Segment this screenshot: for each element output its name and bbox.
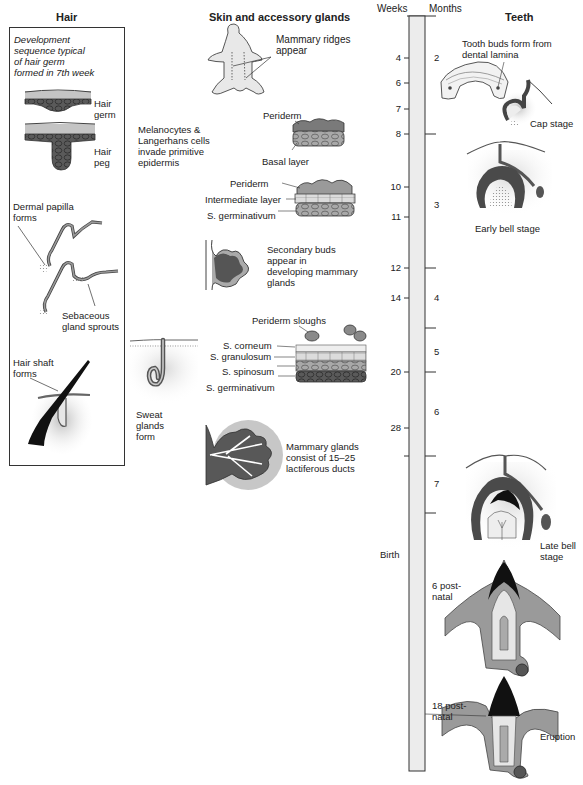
- sebaceous-gland-label: Sebaceous gland sprouts: [62, 310, 119, 332]
- s-spinosum-label: S. spinosum: [222, 366, 274, 377]
- label-line: natal: [432, 591, 461, 602]
- month-label: 4: [434, 292, 439, 303]
- s-corneum-label: S. corneum: [223, 340, 272, 351]
- sweat-glands-label: Sweat glands form: [136, 409, 164, 442]
- periderm-label-1: Periderm: [263, 110, 302, 121]
- s-germinativum-label-2: S. germinativum: [206, 382, 275, 393]
- label-line: Mammary glands: [286, 441, 359, 452]
- postnatal-6-label: 6 post- natal: [432, 580, 461, 602]
- week-label: 12: [390, 262, 401, 273]
- week-label: 4: [396, 52, 401, 63]
- month-label: 7: [434, 478, 439, 489]
- secondary-buds-label: Secondary buds appear in developing mamm…: [267, 244, 358, 288]
- label-line: form: [136, 431, 164, 442]
- label-line: Sweat: [136, 409, 164, 420]
- week-label: 8: [396, 128, 401, 139]
- s-germinativum-label-1: S. germinativum: [207, 210, 276, 221]
- month-ticks: [425, 134, 436, 513]
- label-line: Sebaceous: [62, 310, 119, 321]
- label-line: Langerhans cells: [138, 135, 210, 146]
- label-line: lactiferous ducts: [286, 463, 359, 474]
- week-label: 28: [390, 422, 401, 433]
- week-label: 10: [390, 181, 401, 192]
- label-line: natal: [432, 711, 466, 722]
- label-line: Hair shaft: [13, 357, 54, 368]
- week-label: 6: [396, 77, 401, 88]
- tooth-buds-label: Tooth buds form from dental lamina: [462, 38, 552, 60]
- two-layer-epidermis-illustration: [292, 119, 344, 150]
- postnatal-18-label: 18 post- natal: [432, 700, 466, 722]
- label-line: Tooth buds form from: [462, 38, 552, 49]
- month-label: 5: [434, 346, 439, 357]
- label-line: forms: [13, 212, 74, 223]
- hair-shaft-label: Hair shaft forms: [13, 357, 54, 379]
- label-line: consist of 15–25: [286, 452, 359, 463]
- label-line: dental lamina: [462, 49, 552, 60]
- periderm-label-2: Periderm: [230, 178, 269, 189]
- label-line: stage: [540, 551, 576, 562]
- label-line: developing mammary: [267, 266, 358, 277]
- dermal-papilla-label: Dermal papilla forms: [13, 201, 74, 223]
- four-layer-epidermis-illustration: [274, 325, 366, 382]
- timeline-bar: [407, 16, 436, 771]
- hair-germ-label: Hair germ: [94, 98, 116, 120]
- label-line: invade primitive: [138, 146, 210, 157]
- three-layer-epidermis-illustration: [278, 180, 355, 216]
- birth-label: Birth: [380, 549, 400, 560]
- week-label: 11: [391, 211, 401, 222]
- hair-peg-label: Hair peg: [94, 146, 111, 168]
- label-line: Mammary ridges: [276, 34, 350, 45]
- label-line: appear in: [267, 255, 358, 266]
- label-line: glands: [267, 277, 358, 288]
- mammary-glands-label: Mammary glands consist of 15–25 lactifer…: [286, 441, 359, 474]
- early-bell-stage-illustration: [467, 142, 552, 216]
- sweat-gland-illustration: [130, 340, 198, 405]
- embryo-mammary-ridges-illustration: [208, 24, 271, 94]
- label-line: Late bell: [540, 540, 576, 551]
- postnatal-6-tooth-illustration: [445, 560, 560, 676]
- late-bell-stage-illustration: [466, 455, 556, 550]
- label-line: Dermal papilla: [13, 201, 74, 212]
- label-line: Secondary buds: [267, 244, 358, 255]
- sebaceous-gland-illustration: [39, 263, 118, 316]
- week-label: 14: [390, 292, 401, 303]
- mammary-glands-illustration: [206, 420, 283, 490]
- week-label: 20: [390, 366, 401, 377]
- label-line: epidermis: [138, 157, 210, 168]
- label-line: appear: [276, 45, 350, 56]
- periderm-sloughs-label: Periderm sloughs: [252, 315, 326, 326]
- eruption-label: Eruption: [540, 731, 575, 742]
- label-line: peg: [94, 157, 111, 168]
- label-line: gland sprouts: [62, 321, 119, 332]
- secondary-buds-illustration: [206, 240, 249, 290]
- month-label: 6: [434, 406, 439, 417]
- month-label: 2: [434, 52, 439, 63]
- melanocytes-label: Melanocytes & Langerhans cells invade pr…: [138, 124, 210, 168]
- label-line: 6 post-: [432, 580, 461, 591]
- month-label: 3: [434, 199, 439, 210]
- week-ticks: [404, 58, 409, 456]
- label-line: glands: [136, 420, 164, 431]
- label-line: Melanocytes &: [138, 124, 210, 135]
- label-line: germ: [94, 109, 116, 120]
- mammary-ridges-label: Mammary ridges appear: [276, 34, 350, 56]
- hair-peg-illustration: [25, 123, 95, 171]
- early-bell-stage-label: Early bell stage: [475, 223, 540, 234]
- s-granulosum-label: S. granulosum: [210, 351, 271, 362]
- label-line: forms: [13, 368, 54, 379]
- late-bell-stage-label: Late bell stage: [540, 540, 576, 562]
- label-line: Hair: [94, 98, 116, 109]
- week-label: 7: [396, 103, 401, 114]
- dermal-papilla-illustration: [18, 222, 102, 272]
- label-line: 18 post-: [432, 700, 466, 711]
- cap-stage-label: Cap stage: [530, 118, 573, 129]
- intermediate-layer-label: Intermediate layer: [205, 194, 281, 205]
- eruption-tooth-illustration: [425, 676, 558, 778]
- label-line: Hair: [94, 146, 111, 157]
- dental-lamina-illustration: [441, 62, 508, 99]
- basal-layer-label: Basal layer: [262, 156, 309, 167]
- hair-germ-illustration: [25, 90, 91, 112]
